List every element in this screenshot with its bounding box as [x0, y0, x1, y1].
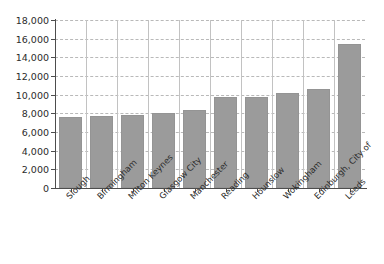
y-axis-tick-label: 10,000	[1, 89, 49, 100]
y-axis-tick-label: 14,000	[1, 52, 49, 63]
y-axis-tick-mark	[51, 76, 55, 77]
y-axis-tick-label: 4,000	[1, 145, 49, 156]
gridline-vertical	[241, 20, 242, 188]
y-axis-tick-mark	[51, 57, 55, 58]
y-axis-tick-mark	[51, 39, 55, 40]
y-axis-tick-label: 8,000	[1, 108, 49, 119]
y-axis-tick-mark	[51, 95, 55, 96]
gridline-vertical	[179, 20, 180, 188]
y-axis-line	[55, 19, 56, 189]
y-axis-tick-label: 2,000	[1, 164, 49, 175]
y-axis-tick-mark	[51, 113, 55, 114]
gridline-vertical	[303, 20, 304, 188]
y-axis-tick-mark	[51, 20, 55, 21]
y-axis-tick-mark	[51, 169, 55, 170]
gridline-vertical	[117, 20, 118, 188]
y-axis-tick-mark	[51, 151, 55, 152]
y-axis-tick-mark	[51, 188, 55, 189]
gridline-vertical	[210, 20, 211, 188]
bar-chart: 02,0004,0006,0008,00010,00012,00014,0001…	[0, 0, 384, 264]
y-axis-tick-label: 18,000	[1, 15, 49, 26]
bar[interactable]	[90, 116, 112, 188]
gridline-vertical	[148, 20, 149, 188]
bar[interactable]	[59, 117, 81, 188]
y-axis-tick-label: 6,000	[1, 127, 49, 138]
y-axis-tick-label: 12,000	[1, 71, 49, 82]
y-axis-tick-label: 16,000	[1, 33, 49, 44]
gridline-vertical	[86, 20, 87, 188]
y-axis-tick-labels: 02,0004,0006,0008,00010,00012,00014,0001…	[0, 0, 49, 264]
y-axis-tick-mark	[51, 132, 55, 133]
y-axis-tick-label: 0	[1, 183, 49, 194]
gridline-vertical	[272, 20, 273, 188]
gridline-vertical	[334, 20, 335, 188]
